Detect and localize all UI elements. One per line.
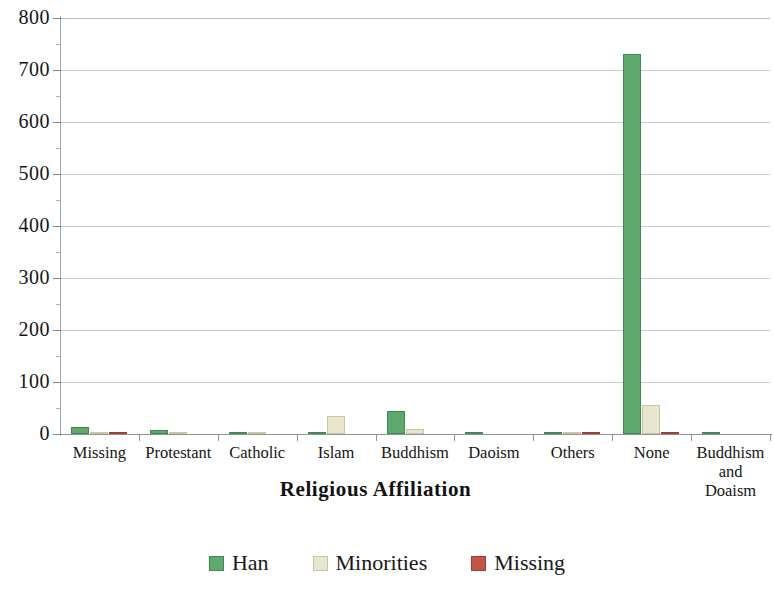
y-tick-minor-mark [56, 200, 61, 201]
bar-han-others [544, 432, 562, 434]
bar-group [465, 18, 522, 434]
y-tick-label: 800 [19, 7, 51, 27]
bar-group [150, 18, 207, 434]
legend-label: Missing [494, 552, 565, 574]
legend-swatch-icon [471, 556, 486, 571]
x-tick-mark [533, 434, 534, 441]
bar-group [71, 18, 128, 434]
x-tick-mark [297, 434, 298, 441]
bar-minorities-buddhism [406, 429, 424, 434]
y-tick-mark [53, 434, 61, 435]
bar-minorities-none [642, 405, 660, 434]
y-tick-label: 600 [19, 111, 51, 131]
x-tick-mark [454, 434, 455, 441]
bar-minorities-islam [327, 416, 345, 434]
bar-han-daoism [465, 432, 483, 434]
legend-label: Han [232, 552, 269, 574]
y-tick-minor-mark [56, 148, 61, 149]
x-tick-mark [376, 434, 377, 441]
bar-han-buddhism [387, 411, 405, 434]
legend-swatch-icon [313, 556, 328, 571]
bar-group [229, 18, 286, 434]
bar-han-catholic [229, 432, 247, 434]
x-tick-mark [139, 434, 140, 441]
legend-item-han[interactable]: Han [209, 552, 269, 574]
chart-legend: HanMinoritiesMissing [0, 552, 774, 574]
bar-missing-missing [109, 432, 127, 434]
bar-minorities-others [563, 432, 581, 434]
legend-item-mis[interactable]: Missing [471, 552, 565, 574]
bar-han-buddhism-and-doaism [702, 432, 720, 434]
bar-minorities-protestant [169, 432, 187, 434]
x-tick-label: BuddhismandDoaism [681, 443, 774, 500]
y-tick-label: 500 [19, 163, 51, 183]
bar-han-missing [71, 427, 89, 434]
x-tick-label-line: Doaism [681, 481, 774, 500]
y-tick-minor-mark [56, 304, 61, 305]
y-tick-mark [53, 70, 61, 71]
legend-swatch-icon [209, 556, 224, 571]
y-tick-mark [53, 122, 61, 123]
y-tick-mark [53, 330, 61, 331]
y-tick-minor-mark [56, 44, 61, 45]
legend-label: Minorities [336, 552, 428, 574]
y-tick-mark [53, 278, 61, 279]
y-tick-mark [53, 382, 61, 383]
y-tick-mark [53, 226, 61, 227]
x-tick-mark [218, 434, 219, 441]
bar-group [702, 18, 759, 434]
y-tick-minor-mark [56, 252, 61, 253]
bar-group [544, 18, 601, 434]
bar-chart-figure: 0100200300400500600700800 MissingProtest… [0, 0, 774, 590]
y-tick-label: 200 [19, 319, 51, 339]
bar-minorities-missing [90, 432, 108, 434]
bar-han-islam [308, 432, 326, 434]
x-tick-mark [612, 434, 613, 441]
bar-group [387, 18, 444, 434]
x-tick-label-line: and [681, 462, 774, 481]
y-tick-label: 700 [19, 59, 51, 79]
legend-item-min[interactable]: Minorities [313, 552, 428, 574]
bar-group [623, 18, 680, 434]
bar-han-protestant [150, 430, 168, 434]
y-tick-label: 400 [19, 215, 51, 235]
y-tick-minor-mark [56, 96, 61, 97]
y-tick-label: 0 [40, 423, 51, 443]
bar-missing-none [661, 432, 679, 434]
y-tick-label: 300 [19, 267, 51, 287]
x-axis-title: Religious Affiliation [60, 477, 691, 502]
bar-han-none [623, 54, 641, 434]
x-tick-label-line: Buddhism [681, 443, 774, 462]
y-tick-mark [53, 174, 61, 175]
x-axis-line [60, 434, 772, 435]
x-tick-mark [770, 434, 771, 441]
y-tick-minor-mark [56, 356, 61, 357]
y-tick-mark [53, 18, 61, 19]
y-tick-label: 100 [19, 371, 51, 391]
y-tick-minor-mark [56, 408, 61, 409]
bar-missing-others [582, 432, 600, 434]
bar-group [308, 18, 365, 434]
bar-minorities-catholic [248, 432, 266, 434]
x-tick-mark [691, 434, 692, 441]
